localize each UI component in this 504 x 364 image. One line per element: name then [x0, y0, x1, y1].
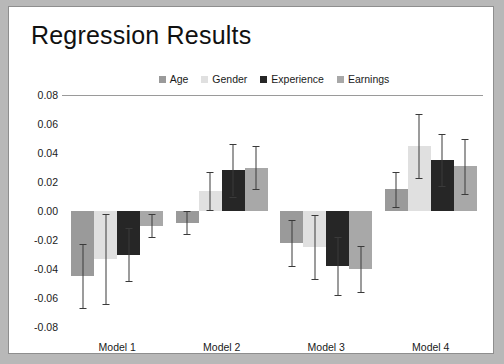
legend-item-earnings[interactable]: Earnings	[337, 73, 389, 85]
bar-slot	[385, 95, 408, 327]
legend-item-experience[interactable]: Experience	[260, 73, 324, 85]
error-bar-cap	[253, 146, 260, 147]
bar-slot	[222, 95, 245, 327]
error-bar-cap	[207, 210, 214, 211]
x-axis-tick-label: Model 3	[274, 341, 379, 353]
bar-group: Model 1	[65, 95, 170, 327]
bar-slot	[303, 95, 326, 327]
bar-slot	[245, 95, 268, 327]
error-bar	[337, 237, 338, 295]
page-title: Regression Results	[31, 21, 251, 50]
error-bar-cap	[439, 186, 446, 187]
error-bar-cap	[357, 246, 364, 247]
error-bar-cap	[439, 134, 446, 135]
legend-swatch-icon	[260, 76, 267, 83]
bar-slot	[280, 95, 303, 327]
error-bar-cap	[184, 211, 191, 212]
error-bar	[105, 214, 106, 304]
error-bar-cap	[253, 189, 260, 190]
y-axis-tick-label: 0.06	[38, 118, 58, 130]
error-bar	[128, 228, 129, 280]
error-bar-cap	[125, 281, 132, 282]
error-bar-cap	[311, 279, 318, 280]
error-bar-cap	[230, 197, 237, 198]
error-bar	[465, 139, 466, 194]
bar-slot	[199, 95, 222, 327]
error-bar-cap	[357, 292, 364, 293]
error-bar-cap	[184, 234, 191, 235]
x-axis-tick-label: Model 4	[379, 341, 484, 353]
legend-swatch-icon	[159, 76, 166, 83]
error-bar-cap	[79, 244, 86, 245]
error-bar-cap	[334, 295, 341, 296]
bar-set	[274, 95, 379, 327]
error-bar-cap	[416, 178, 423, 179]
error-bar	[187, 211, 188, 234]
error-bar	[233, 144, 234, 196]
error-bar	[442, 134, 443, 186]
error-bar-cap	[288, 220, 295, 221]
error-bar-cap	[207, 172, 214, 173]
bar-group: Model 4	[379, 95, 484, 327]
y-axis-tick-label: -0.04	[34, 263, 58, 275]
error-bar	[210, 172, 211, 210]
error-bar	[82, 244, 83, 308]
bar-slot	[117, 95, 140, 327]
bar-set	[65, 95, 170, 327]
error-bar-cap	[79, 308, 86, 309]
error-bar	[256, 146, 257, 190]
y-axis-tick-label: -0.02	[34, 234, 58, 246]
bar-slot	[71, 95, 94, 327]
bar-groups: Model 1Model 2Model 3Model 4	[65, 95, 483, 327]
x-axis-tick-label: Model 2	[170, 341, 275, 353]
error-bar-cap	[462, 139, 469, 140]
bar-slot	[140, 95, 163, 327]
error-bar	[360, 246, 361, 292]
bar-slot	[94, 95, 117, 327]
error-bar-cap	[311, 215, 318, 216]
error-bar-cap	[230, 144, 237, 145]
error-bar	[396, 172, 397, 207]
bar-slot	[349, 95, 372, 327]
legend-swatch-icon	[201, 76, 208, 83]
y-axis-tick-label: -0.08	[34, 321, 58, 333]
bar-slot	[176, 95, 199, 327]
error-bar-cap	[125, 228, 132, 229]
bar-set	[170, 95, 275, 327]
chart-legend: AgeGenderExperienceEarnings	[129, 73, 419, 85]
error-bar	[419, 114, 420, 178]
bar-slot	[408, 95, 431, 327]
plot-area: Model 1Model 2Model 3Model 4 0.080.060.0…	[65, 95, 483, 327]
screenshot-root: Regression Results AgeGenderExperienceEa…	[0, 0, 504, 364]
bar-slot	[454, 95, 477, 327]
bar-group: Model 3	[274, 95, 379, 327]
error-bar-cap	[148, 214, 155, 215]
error-bar-cap	[393, 207, 400, 208]
bar-slot	[431, 95, 454, 327]
bar-slot	[326, 95, 349, 327]
y-axis-tick-label: 0.04	[38, 147, 58, 159]
x-axis-tick-label: Model 1	[65, 341, 170, 353]
legend-label: Earnings	[348, 73, 389, 85]
legend-label: Age	[170, 73, 189, 85]
error-bar-cap	[462, 194, 469, 195]
error-bar-cap	[102, 304, 109, 305]
chart-card: Regression Results AgeGenderExperienceEa…	[8, 6, 494, 354]
legend-item-age[interactable]: Age	[159, 73, 189, 85]
legend-label: Gender	[212, 73, 247, 85]
error-bar-cap	[334, 237, 341, 238]
bar-set	[379, 95, 484, 327]
error-bar	[314, 215, 315, 279]
y-axis-tick-label: -0.06	[34, 292, 58, 304]
bar-group: Model 2	[170, 95, 275, 327]
legend-label: Experience	[271, 73, 324, 85]
error-bar	[151, 214, 152, 237]
error-bar-cap	[148, 237, 155, 238]
error-bar	[291, 220, 292, 266]
legend-swatch-icon	[337, 76, 344, 83]
error-bar-cap	[102, 214, 109, 215]
y-axis-tick-label: 0.02	[38, 176, 58, 188]
legend-item-gender[interactable]: Gender	[201, 73, 247, 85]
y-axis-tick-label: 0.00	[38, 205, 58, 217]
error-bar-cap	[393, 172, 400, 173]
